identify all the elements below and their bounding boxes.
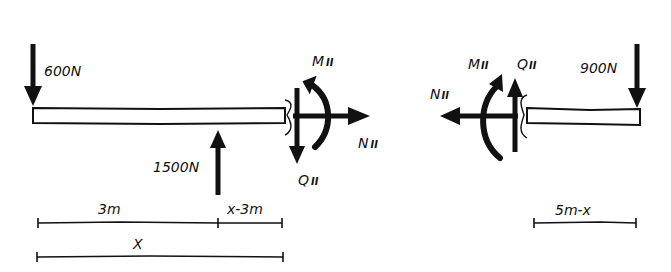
moment-cw-arc-icon (483, 86, 500, 158)
left-shear-label: QII (298, 172, 319, 188)
dim-3m-label: 3m (98, 201, 121, 217)
dim-line-3m (38, 218, 218, 228)
right-beam-section (521, 95, 640, 138)
load-600n-label: 600N (44, 63, 82, 79)
right-shear-label: QII (517, 56, 537, 72)
load-600n-arrow: 600N (24, 44, 82, 106)
right-normal-label: NII (430, 86, 449, 102)
right-dimensions: 5m-x (534, 202, 636, 228)
dim-line-x-minus-3m (218, 218, 282, 228)
free-body-diagram: 600N 1500N MII NII QII 3m x-3m X (0, 0, 671, 272)
left-beam-section (33, 100, 291, 135)
load-1500n-label: 1500N (153, 159, 200, 175)
dim-line-x (37, 252, 283, 262)
left-normal-label: NII (358, 135, 378, 151)
right-moment-label: MII (468, 56, 489, 72)
load-900n-label: 900N (580, 60, 618, 76)
left-beam (33, 108, 285, 124)
right-beam (527, 108, 640, 125)
left-moment-label: MII (312, 53, 334, 69)
dim-x-minus-3m-label: x-3m (226, 201, 263, 217)
dim-5m-minus-x-label: 5m-x (555, 202, 592, 218)
dim-x-label: X (132, 236, 143, 252)
load-900n-arrow: 900N (580, 44, 646, 108)
load-1500n-arrow: 1500N (153, 130, 226, 195)
right-internal-forces: MII QII NII (430, 56, 537, 158)
left-internal-forces: MII NII QII (289, 53, 378, 188)
dim-line-5m-minus-x (534, 218, 636, 228)
left-dimensions: 3m x-3m X (37, 201, 283, 262)
